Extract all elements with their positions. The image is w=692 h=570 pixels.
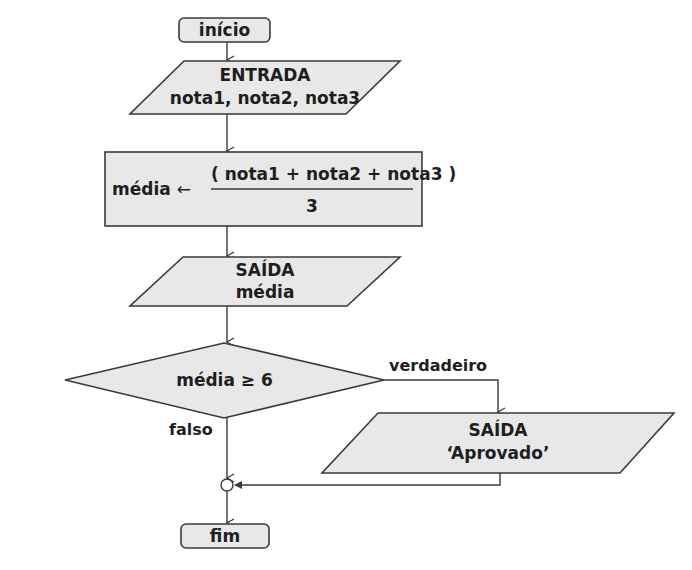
process-target-var: média — [112, 179, 171, 199]
end-label: fim — [181, 524, 269, 548]
junction-connector — [221, 479, 233, 491]
process-denominator: 3 — [211, 195, 413, 217]
decision-condition: média ≥ 6 — [65, 369, 384, 391]
arrowhead-junction — [234, 481, 242, 489]
false-branch-label: falso — [169, 420, 213, 439]
output-approved-title: SAÍDA — [322, 419, 674, 441]
true-branch-label: verdadeiro — [389, 356, 487, 375]
output-average-title: SAÍDA — [130, 259, 400, 281]
input-title: ENTRADA — [130, 64, 400, 86]
edge-decision-true — [384, 380, 498, 412]
output-average-value: média — [130, 281, 400, 303]
process-target: média ← — [112, 178, 191, 200]
start-label: início — [179, 18, 270, 42]
process-numerator: ( nota1 + nota2 + nota3 ) — [211, 163, 413, 185]
input-variables: nota1, nota2, nota3 — [130, 87, 400, 109]
edge-approved-junction — [235, 473, 500, 485]
output-approved-value: ‘Aprovado’ — [322, 442, 674, 464]
assign-arrow-icon: ← — [177, 179, 191, 199]
